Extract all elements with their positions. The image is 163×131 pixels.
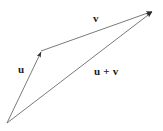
vector-u-plus-v-line [7,12,152,123]
vector-u-plus-v-label: u + v [94,66,118,77]
vector-v-label: v [93,13,99,24]
vector-diagram-canvas [0,0,163,131]
vector-addition-diagram: u v u + v [0,0,163,131]
vector-u-label: u [18,64,24,75]
vector-u-line [7,52,41,123]
